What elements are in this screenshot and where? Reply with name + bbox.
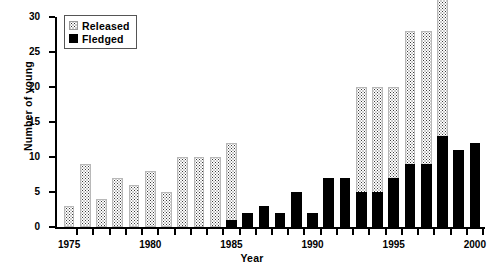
legend-label-fledged: Fledged bbox=[82, 33, 124, 45]
x-tick-minor bbox=[222, 229, 224, 235]
bar-segment-released bbox=[161, 192, 172, 227]
x-axis-label: Year bbox=[0, 252, 504, 264]
legend-item-released: Released bbox=[69, 19, 130, 32]
bar-segment-released bbox=[210, 157, 221, 227]
bar-segment-fledged bbox=[259, 206, 270, 227]
bar-group bbox=[470, 143, 481, 227]
x-tick-minor bbox=[385, 229, 387, 235]
x-tick-label: 2000 bbox=[464, 239, 486, 250]
bar-group bbox=[388, 87, 399, 227]
y-tick: 20 bbox=[49, 86, 55, 88]
chart-legend: Released Fledged bbox=[64, 15, 137, 49]
bar-segment-fledged bbox=[470, 143, 481, 227]
x-tick-minor bbox=[157, 229, 159, 235]
bar-group bbox=[307, 213, 318, 227]
bar-group bbox=[80, 164, 91, 227]
bar-group bbox=[291, 192, 302, 227]
x-tick-minor bbox=[466, 229, 468, 235]
y-tick-label: 0 bbox=[34, 221, 40, 232]
bar-group bbox=[453, 150, 464, 227]
bar-group bbox=[323, 178, 334, 227]
bar-segment-released bbox=[129, 185, 140, 227]
bar-segment-fledged bbox=[388, 178, 399, 227]
y-tick-label: 10 bbox=[29, 151, 40, 162]
bar-segment-fledged bbox=[226, 220, 237, 227]
bar-segment-fledged bbox=[291, 192, 302, 227]
bar-group bbox=[226, 143, 237, 227]
y-tick: 5 bbox=[49, 191, 55, 193]
y-tick-label: 15 bbox=[29, 116, 40, 127]
bar-segment-released bbox=[80, 164, 91, 227]
x-tick-minor bbox=[433, 229, 435, 235]
bar-segment-fledged bbox=[421, 164, 432, 227]
y-tick-label: 20 bbox=[29, 81, 40, 92]
bar-group bbox=[161, 192, 172, 227]
bar-segment-released bbox=[96, 199, 107, 227]
bar-chart-figure: Number of young Year 051015202530 197519… bbox=[0, 0, 504, 278]
bar-segment-released bbox=[112, 178, 123, 227]
bar-segment-released bbox=[226, 143, 237, 227]
x-tick-minor bbox=[368, 229, 370, 235]
x-tick-minor bbox=[141, 229, 143, 235]
x-tick-minor bbox=[190, 229, 192, 235]
bar-segment-fledged bbox=[453, 150, 464, 227]
x-tick-minor bbox=[239, 229, 241, 235]
bar-group bbox=[177, 157, 188, 227]
x-tick-minor bbox=[255, 229, 257, 235]
bar-group bbox=[405, 31, 416, 227]
x-tick-minor bbox=[206, 229, 208, 235]
y-tick-label: 5 bbox=[34, 186, 40, 197]
bar-group bbox=[64, 206, 75, 227]
y-tick: 0 bbox=[49, 226, 55, 228]
bar-segment-released bbox=[194, 157, 205, 227]
y-tick-label: 25 bbox=[29, 46, 40, 57]
x-tick-label: 1980 bbox=[139, 239, 161, 250]
x-tick-minor bbox=[125, 229, 127, 235]
x-tick-label: 1975 bbox=[58, 239, 80, 250]
x-tick-minor bbox=[482, 229, 484, 235]
bar-segment-fledged bbox=[340, 178, 351, 227]
x-tick-minor bbox=[287, 229, 289, 235]
legend-label-released: Released bbox=[82, 20, 130, 32]
bar-group bbox=[437, 0, 448, 227]
bar-group bbox=[210, 157, 221, 227]
y-tick-label: 30 bbox=[29, 11, 40, 22]
x-tick-label: 1990 bbox=[301, 239, 323, 250]
x-tick-minor bbox=[417, 229, 419, 235]
bar-segment-fledged bbox=[242, 213, 253, 227]
bar-group bbox=[242, 213, 253, 227]
stipple-swatch-icon bbox=[69, 21, 78, 30]
bar-segment-released bbox=[64, 206, 75, 227]
x-tick-minor bbox=[174, 229, 176, 235]
bar-group bbox=[275, 213, 286, 227]
bar-group bbox=[145, 171, 156, 227]
legend-item-fledged: Fledged bbox=[69, 32, 130, 45]
bar-segment-fledged bbox=[323, 178, 334, 227]
bar-group bbox=[372, 87, 383, 227]
x-tick-minor bbox=[271, 229, 273, 235]
bar-segment-fledged bbox=[307, 213, 318, 227]
y-tick: 15 bbox=[49, 121, 55, 123]
x-tick-minor bbox=[352, 229, 354, 235]
x-tick-minor bbox=[336, 229, 338, 235]
bar-segment-released bbox=[145, 171, 156, 227]
bar-group bbox=[421, 31, 432, 227]
bar-group bbox=[259, 206, 270, 227]
y-tick: 30 bbox=[49, 16, 55, 18]
x-axis-line bbox=[55, 227, 485, 229]
bar-segment-released bbox=[177, 157, 188, 227]
bar-segment-fledged bbox=[437, 136, 448, 227]
y-tick: 25 bbox=[49, 51, 55, 53]
bar-segment-fledged bbox=[275, 213, 286, 227]
x-tick-minor bbox=[401, 229, 403, 235]
bar-segment-fledged bbox=[372, 192, 383, 227]
x-tick-label: 1985 bbox=[220, 239, 242, 250]
x-tick-minor bbox=[109, 229, 111, 235]
black-swatch-icon bbox=[69, 34, 78, 43]
bar-group bbox=[194, 157, 205, 227]
bar-group bbox=[356, 87, 367, 227]
bar-group bbox=[112, 178, 123, 227]
bar-group bbox=[96, 199, 107, 227]
x-tick-minor bbox=[450, 229, 452, 235]
y-tick: 10 bbox=[49, 156, 55, 158]
